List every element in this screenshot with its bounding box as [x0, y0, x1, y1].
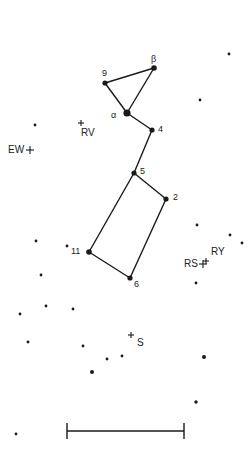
field-star	[194, 400, 197, 403]
field-star	[121, 355, 124, 358]
asterism-line	[127, 113, 152, 130]
star-label-9: 9	[102, 69, 107, 78]
field-star	[40, 274, 43, 277]
variable-label-ew: EW	[8, 145, 24, 155]
field-star	[195, 282, 198, 285]
star-alpha	[123, 109, 130, 116]
field-star	[45, 305, 48, 308]
star-2	[163, 196, 168, 201]
field-star	[90, 370, 94, 374]
field-star	[72, 308, 75, 311]
star-label-11: 11	[71, 247, 80, 256]
variable-star-cross-icon	[26, 146, 34, 154]
star-11	[86, 249, 92, 255]
field-star	[34, 124, 37, 127]
variable-label-ry: RY	[211, 247, 225, 257]
field-star	[228, 53, 231, 56]
variable-label-s: S	[137, 338, 144, 348]
labeled-stars	[86, 65, 168, 280]
field-star	[19, 313, 22, 316]
field-star	[202, 355, 206, 359]
variable-label-rv: RV	[81, 128, 95, 138]
star-5	[131, 170, 136, 175]
star-label-alpha: α	[111, 111, 116, 120]
star-beta	[151, 65, 157, 71]
scale-bar	[67, 423, 184, 439]
star-chart	[0, 0, 252, 451]
asterism-line	[130, 199, 166, 278]
variable-label-rs: RS	[184, 259, 198, 269]
variable-star-cross-icon	[203, 258, 209, 264]
variable-star-cross-icon	[78, 120, 84, 126]
asterism-line	[89, 252, 130, 278]
star-label-6: 6	[134, 280, 139, 289]
star-label-beta: β	[151, 55, 156, 64]
field-star	[106, 358, 109, 361]
asterism-line	[89, 173, 134, 252]
variable-star-cross-icon	[128, 332, 134, 338]
star-label-2: 2	[173, 193, 178, 202]
star-6	[127, 275, 132, 280]
asterism-lines	[89, 68, 166, 278]
field-star	[241, 242, 244, 245]
field-star	[82, 345, 85, 348]
field-star	[27, 341, 30, 344]
asterism-line	[134, 173, 166, 199]
field-star	[66, 245, 69, 248]
field-star	[229, 234, 232, 237]
field-star	[15, 433, 18, 436]
field-star	[196, 224, 199, 227]
field-star	[199, 99, 202, 102]
star-4	[149, 127, 154, 132]
asterism-line	[105, 83, 127, 113]
star-label-4: 4	[158, 125, 163, 134]
field-star	[35, 240, 38, 243]
variable-star-markers	[26, 120, 209, 338]
star-label-5: 5	[140, 167, 145, 176]
star-9	[102, 80, 107, 85]
